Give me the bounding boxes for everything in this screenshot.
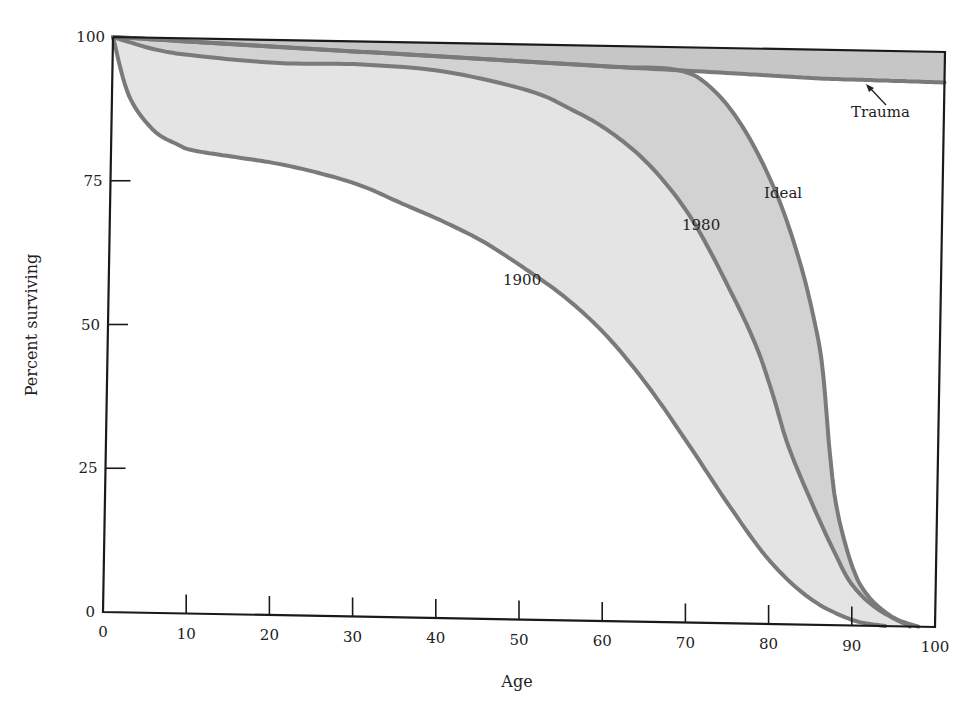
y-tick-label: 50 (81, 316, 100, 334)
x-tick-label: 70 (676, 634, 695, 652)
y-tick-label: 25 (78, 459, 97, 477)
x-tick-label: 80 (759, 635, 778, 653)
survival-curve-chart: 01020304050607080901000255075100 Age Per… (0, 0, 973, 720)
x-tick-label: 30 (343, 628, 362, 646)
label-trauma: Trauma (851, 103, 910, 121)
x-tick-label: 60 (593, 632, 612, 650)
x-tick-label: 50 (509, 631, 528, 649)
y-tick-label: 75 (83, 172, 102, 190)
label-1900: 1900 (503, 271, 541, 289)
x-tick-label: 10 (177, 625, 196, 643)
y-axis-title: Percent surviving (22, 254, 41, 396)
x-tick-label: 90 (842, 637, 861, 655)
y-tick-label: 0 (85, 603, 95, 621)
label-1980: 1980 (682, 216, 720, 234)
y-tick-label: 100 (76, 28, 105, 46)
x-tick-label: 100 (921, 638, 950, 656)
x-axis-title: Age (500, 672, 532, 691)
area-fills (113, 37, 945, 627)
label-ideal: Ideal (764, 184, 802, 202)
x-tick-label: 0 (98, 623, 108, 641)
x-tick-label: 20 (260, 626, 279, 644)
x-tick-label: 40 (426, 629, 445, 647)
